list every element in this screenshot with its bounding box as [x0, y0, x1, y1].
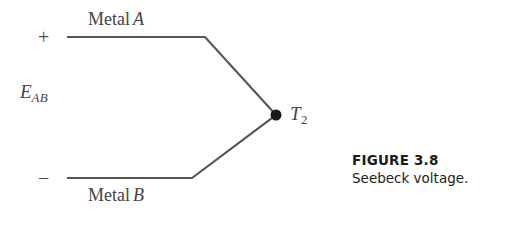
voltage-symbol-subscript: AB: [32, 90, 48, 105]
metal-b-label: MetalB: [88, 186, 144, 204]
junction-label-base: T: [290, 103, 301, 124]
junction-label-subscript: 2: [301, 112, 308, 127]
junction-point-dot: [271, 110, 282, 121]
seebeck-voltage-symbol: EAB: [20, 82, 48, 105]
positive-polarity-sign: +: [38, 27, 49, 47]
junction-temperature-label: T2: [290, 104, 308, 127]
metal-b-label-id: B: [130, 185, 144, 205]
figure-caption-text: Seebeck voltage.: [352, 170, 502, 188]
metal-a-label-prefix: Metal: [88, 9, 130, 29]
voltage-symbol-base: E: [20, 81, 32, 102]
metal-a-label: MetalA: [88, 10, 144, 28]
figure-caption-title: FIGURE 3.8: [352, 152, 502, 169]
negative-polarity-sign: −: [38, 168, 49, 188]
metal-b-conductor-line: [68, 115, 276, 178]
metal-a-label-id: A: [130, 9, 144, 29]
figure-caption: FIGURE 3.8 Seebeck voltage.: [352, 152, 502, 187]
thermocouple-diagram: [0, 0, 510, 229]
seebeck-voltage-figure: + − EAB MetalA MetalB T2 FIGURE 3.8 Seeb…: [0, 0, 510, 229]
metal-b-label-prefix: Metal: [88, 185, 130, 205]
metal-a-conductor-line: [68, 37, 276, 115]
